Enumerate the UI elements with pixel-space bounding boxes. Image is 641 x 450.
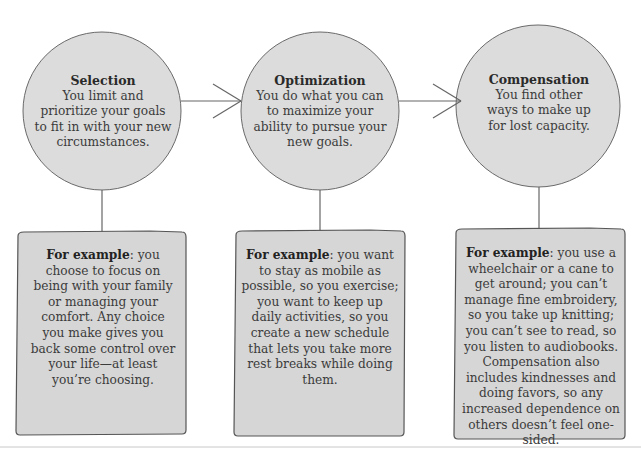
compensation-circle-text: Compensation You find other ways to make… [480, 72, 598, 134]
selection-circle-text: Selection You limit and prioritize your … [34, 73, 172, 151]
compensation-example-lead: For example [466, 246, 550, 260]
selection-example-lead: For example [46, 248, 130, 262]
optimization-example: For example: you want to stay as mobile … [241, 248, 399, 388]
optimization-example-text: : you want to stay as mobile as possible… [241, 248, 398, 387]
selection-title: Selection [34, 73, 172, 89]
optimization-description: You do what you can to maximize your abi… [253, 89, 386, 150]
compensation-description: You find other ways to make up for lost … [487, 88, 591, 133]
optimization-example-lead: For example [246, 248, 330, 262]
compensation-title: Compensation [480, 72, 598, 88]
arrow-selection-to-optimization [181, 84, 241, 118]
arrow-optimization-to-compensation [399, 84, 461, 118]
selection-example-text: : you choose to focus on being with your… [31, 248, 176, 387]
compensation-example-text: : you use a wheelchair or a cane to get … [462, 246, 620, 447]
compensation-example: For example: you use a wheelchair or a c… [462, 246, 620, 449]
selection-example: For example: you choose to focus on bein… [30, 248, 176, 388]
optimization-title: Optimization [253, 73, 387, 89]
selection-description: You limit and prioritize your goals to f… [35, 89, 172, 150]
optimization-circle-text: Optimization You do what you can to maxi… [253, 73, 387, 151]
